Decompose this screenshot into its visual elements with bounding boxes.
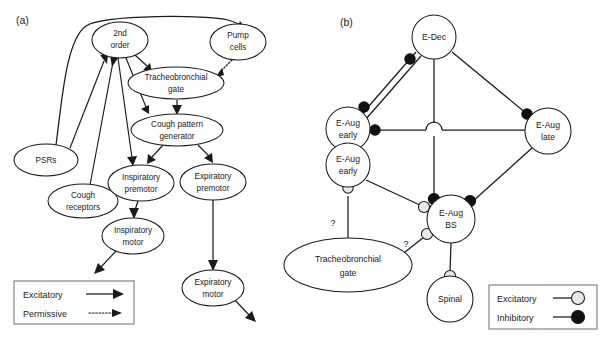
edge-e-aug-early-to-e-dec-b (359, 56, 421, 119)
edge-inspiratory-motor-output (94, 250, 117, 274)
neural-circuit-diagram: (a) (0, 0, 606, 347)
edge-expiratory-motor-output (234, 299, 256, 322)
panel-a-label: (a) (16, 14, 29, 26)
arrowhead (129, 208, 139, 219)
edge-psrs-to-second-order (70, 54, 108, 148)
node-expiratory-premotor[interactable]: Expiratory premotor (180, 164, 246, 200)
node-label: Inspiratory (122, 173, 161, 182)
node-label: E-Aug (536, 120, 560, 130)
edge-cough-pattern-generator-to-inspiratory-premotor (147, 145, 163, 164)
edge-e-aug-early-to-e-aug-bs (366, 180, 430, 213)
node-spinal[interactable]: Spinal (427, 276, 473, 322)
node-label: E-Dec (422, 32, 447, 42)
node-label: early (339, 166, 358, 176)
arrowhead (127, 156, 137, 166)
node-cough-pattern-generator[interactable]: Cough pattern generator (131, 114, 223, 146)
node-label: PSRs (36, 156, 57, 165)
legend-item-label-excitatory: Excitatory (23, 290, 63, 300)
node-label: Cough (71, 191, 96, 200)
node-label: Expiratory (195, 278, 233, 287)
node-e-aug-late[interactable]: E-Aug late (525, 108, 571, 154)
node-label: Tracheobronchial (145, 73, 208, 82)
node-label: E-Aug (336, 154, 360, 164)
node-label: early (339, 130, 358, 140)
edge-e-aug-early-to-tracheobronchial-gate: ? (330, 183, 353, 240)
node-tracheobronchial-gate[interactable]: Tracheobronchial gate (128, 67, 224, 99)
panel-b-label: (b) (340, 16, 353, 28)
node-e-aug-bs[interactable]: E-Aug BS (427, 195, 475, 243)
edge-cough-receptors-to-second-order (90, 55, 118, 185)
node-label: gate (340, 268, 357, 278)
panel-b: (b) (284, 15, 597, 329)
legend-item-label-excitatory: Excitatory (497, 294, 537, 304)
node-label: Pump (227, 31, 249, 40)
edge-e-dec-to-e-aug-late (452, 52, 532, 119)
node-label: Spinal (438, 294, 462, 304)
arrowhead (204, 153, 213, 163)
edge-second-order-to-inspiratory-premotor (118, 58, 137, 166)
node-label: cells (230, 43, 246, 52)
node-label: Inspiratory (114, 226, 153, 235)
arrowhead (208, 260, 218, 271)
node-label: order (110, 41, 129, 50)
node-label: E-Aug (439, 208, 463, 218)
node-e-dec[interactable]: E-Dec (412, 15, 456, 59)
node-label: Tracheobronchial (315, 254, 381, 264)
node-psrs[interactable]: PSRs (14, 144, 78, 176)
edge-inspiratory-premotor-to-inspiratory-motor (129, 201, 139, 219)
node-cough-receptors[interactable]: Cough receptors (48, 184, 118, 218)
edge-tracheobronchial-gate-to-cough-pattern-generator (172, 100, 182, 115)
edge-e-aug-late-to-e-aug-bs (464, 148, 532, 207)
node-expiratory-motor[interactable]: Expiratory motor (182, 270, 244, 306)
node-label: motor (123, 238, 144, 247)
node-label: gate (168, 85, 184, 94)
node-label: Expiratory (195, 172, 233, 181)
node-label: premotor (197, 184, 230, 193)
node-inspiratory-motor[interactable]: Inspiratory motor (102, 218, 164, 254)
annotation-question-mark: ? (403, 238, 408, 249)
legend-panel-a: Excitatory Permissive (14, 281, 134, 324)
annotation-question-mark: ? (330, 217, 335, 228)
edge-e-aug-early-to-e-aug-late (370, 122, 526, 135)
legend-marker-inhibitory (572, 311, 585, 324)
panel-a: (a) (14, 14, 266, 324)
edge-e-dec-to-e-aug-early-a (362, 52, 416, 114)
node-label: Cough pattern (151, 120, 203, 129)
synapse-inhibitory (370, 125, 380, 135)
node-label: 2nd (113, 29, 127, 38)
node-label: receptors (66, 203, 100, 212)
legend-marker-excitatory (572, 292, 585, 305)
edge-expiratory-premotor-to-expiratory-motor (208, 200, 218, 271)
arrowhead (141, 105, 149, 114)
node-tracheobronchial-gate-b[interactable]: Tracheobronchial gate (284, 238, 412, 292)
figure-canvas: (a) (0, 0, 606, 347)
legend-item-label-permissive: Permissive (23, 309, 67, 319)
synapse-inhibitory (405, 54, 415, 64)
legend-panel-b: Excitatory Inhibitory (489, 285, 597, 329)
node-e-aug-early-lower[interactable]: E-Aug early (326, 143, 370, 187)
node-label: motor (203, 290, 224, 299)
node-label: E-Aug (336, 118, 360, 128)
node-label: premotor (125, 185, 158, 194)
node-label: late (541, 132, 555, 142)
node-label: generator (159, 132, 194, 141)
arrowhead (147, 154, 156, 164)
legend-item-label-inhibitory: Inhibitory (497, 313, 534, 323)
node-inspiratory-premotor[interactable]: Inspiratory premotor (108, 165, 174, 201)
edge-e-dec-to-e-aug-bs (428, 59, 439, 205)
node-second-order[interactable]: 2nd order (92, 22, 148, 58)
node-pump-cells[interactable]: Pump cells (210, 24, 266, 60)
node-label: BS (445, 220, 457, 230)
edge-cough-pattern-generator-to-expiratory-premotor (198, 145, 213, 163)
